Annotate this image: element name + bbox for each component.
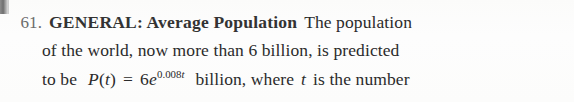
exercise-line-3-tail: is the number (313, 69, 410, 89)
exercise-line-3-suffix: billion, where (195, 69, 294, 89)
exercise-line-2-text: of the world, now more than 6 billion, i… (42, 40, 399, 60)
math-equals-sign: = (123, 69, 133, 89)
math-function-name: P (88, 69, 99, 89)
exercise-number: 61. (0, 13, 42, 33)
math-expression: P(t)=6e0.008t (88, 69, 184, 89)
math-exponent-coefficient: 0.008 (157, 68, 181, 80)
exercise-line-1: 61.GENERAL: Average PopulationThe popula… (0, 12, 574, 33)
math-close-paren: ) (110, 69, 116, 89)
exercise-line-3: to beP(t)=6e0.008tbillion, wheretis the … (0, 68, 574, 90)
exercise-line-2: of the world, now more than 6 billion, i… (0, 40, 574, 61)
math-exponent-variable: t (181, 68, 184, 80)
exercise-heading: GENERAL: Average Population (49, 12, 297, 32)
exercise-line-3-prefix: to be (42, 69, 77, 89)
math-coefficient: 6 (140, 69, 149, 89)
math-base-e: e (149, 69, 157, 89)
math-exponent: 0.008t (157, 68, 184, 80)
variable-t: t (301, 69, 306, 89)
exercise-line-1-body: The population (304, 12, 412, 32)
